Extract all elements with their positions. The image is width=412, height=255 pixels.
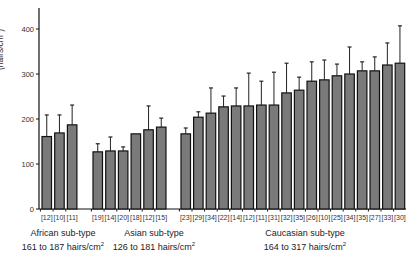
bar [244,106,254,209]
x-tick-label: [34] [205,214,217,222]
x-tick-label: [30] [394,214,406,222]
x-tick-label: [12] [243,214,255,222]
bar [157,127,167,209]
bar [93,152,103,209]
bar [206,113,216,209]
bar [269,105,279,209]
bar-chart: 0100200300400[12][10][11][19][14][20][18… [0,0,412,255]
bar [357,71,367,209]
y-tick-label: 400 [21,25,34,34]
bar [194,117,204,209]
x-tick-label: [11] [256,214,267,222]
group-label-african: African sub-type 161 to 187 hairs/cm2 [18,228,108,253]
x-tick-label: [25] [331,214,343,222]
x-tick-label: [35] [293,214,305,222]
bar [106,151,116,209]
bar [294,90,304,209]
x-tick-label: [26] [306,214,318,222]
bar [370,71,380,209]
bar [131,134,141,209]
bar [118,151,128,209]
bar [181,134,191,209]
x-tick-label: [12] [41,214,53,222]
x-tick-label: [10] [319,214,331,222]
x-tick-label: [29] [193,214,205,222]
x-tick-label: [19] [92,214,104,222]
bar [144,130,154,209]
x-tick-label: [33] [382,214,394,222]
x-tick-label: [22] [218,214,230,222]
x-tick-label: [35] [356,214,368,222]
x-tick-label: [31] [268,214,280,222]
bar [42,137,52,209]
x-tick-label: [27] [369,214,381,222]
bar [282,93,292,209]
y-axis-label: (hairs/cm2) [0,29,5,70]
bar [257,105,267,209]
group-label-asian: Asian sub-type 126 to 181 hairs/cm2 [108,228,200,253]
bar [231,106,241,209]
y-tick-label: 0 [30,205,34,214]
bar [395,63,405,209]
x-tick-label: [11] [67,214,78,222]
x-tick-label: [34] [344,214,356,222]
x-tick-label: [10] [54,214,66,222]
x-tick-label: [14] [105,214,117,222]
bar [307,81,317,209]
group-label-caucasian: Caucasian sub-type 164 to 317 hairs/cm2 [250,228,360,253]
x-tick-label: [15] [155,214,167,222]
bar [55,133,64,209]
x-tick-label: [14] [230,214,242,222]
bar [332,76,342,209]
bar [345,74,355,209]
x-tick-label: [23] [180,214,192,222]
x-tick-label: [20] [117,214,129,222]
bar [320,80,330,209]
bar [67,125,77,209]
x-tick-label: [12] [143,214,155,222]
y-tick-label: 300 [21,70,34,79]
y-tick-label: 200 [21,115,34,124]
x-tick-label: [18] [130,214,142,222]
bar [383,65,393,209]
y-tick-label: 100 [21,160,34,169]
x-tick-label: [32] [281,214,293,222]
bar [219,107,229,209]
